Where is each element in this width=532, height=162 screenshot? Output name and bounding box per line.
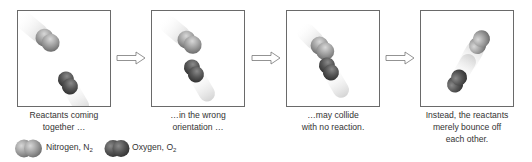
caption-line: …may collide: [273, 109, 393, 121]
panel-3: [286, 10, 380, 107]
caption-line: Instead, the reactants: [407, 109, 527, 121]
oxygen-legend-label: Oxygen, O2: [132, 142, 176, 153]
caption-line: …in the wrong: [138, 109, 258, 121]
legend-subscript: 2: [173, 147, 176, 153]
panel-3-caption: …may collide with no reaction.: [273, 109, 393, 133]
caption-line: Reactants coming: [4, 109, 124, 121]
arrow-right-icon: [116, 51, 146, 65]
panel-2-scene: [152, 11, 245, 107]
panel-4-caption: Instead, the reactants merely bounce off…: [407, 109, 527, 145]
nitrogen-molecule-icon: [156, 12, 205, 57]
caption-line: merely bounce off: [407, 121, 527, 133]
oxygen-molecule-icon: [55, 69, 92, 107]
legend-text: Oxygen, O: [132, 142, 173, 152]
caption-line: together …: [4, 121, 124, 133]
panel-2: [151, 10, 245, 107]
caption-line: orientation …: [138, 121, 258, 133]
panel-1-scene: [18, 11, 111, 107]
nitrogen-molecule-icon: [293, 19, 338, 64]
nitrogen-legend-label: Nitrogen, N2: [46, 142, 93, 153]
caption-line: each other.: [407, 133, 527, 145]
nitrogen-legend-icon: [14, 139, 44, 158]
oxygen-molecule-icon: [316, 55, 352, 101]
nitrogen-molecule-icon: [18, 11, 63, 56]
caption-line: with no reaction.: [273, 121, 393, 133]
panel-1: [17, 10, 111, 107]
legend-subscript: 2: [89, 147, 92, 153]
panel-3-scene: [287, 11, 380, 107]
panel-4: [420, 10, 514, 107]
panel-4-scene: [421, 11, 514, 107]
oxygen-molecule-icon: [181, 57, 218, 105]
panel-1-caption: Reactants coming together …: [4, 109, 124, 133]
legend-text: Nitrogen, N: [46, 142, 89, 152]
panel-2-caption: …in the wrong orientation …: [138, 109, 258, 133]
oxygen-molecule-icon: [444, 51, 479, 95]
arrow-right-icon: [385, 51, 415, 65]
oxygen-legend-icon: [104, 139, 130, 158]
arrow-right-icon: [251, 51, 281, 65]
